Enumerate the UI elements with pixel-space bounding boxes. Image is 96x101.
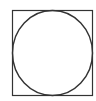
inscribed-circle bbox=[13, 11, 93, 96]
square-with-inscribed-circle bbox=[0, 0, 96, 101]
